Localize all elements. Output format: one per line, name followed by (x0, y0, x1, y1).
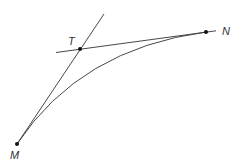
point-t (78, 47, 82, 51)
point-n (204, 30, 208, 34)
label-n: N (222, 25, 230, 37)
diagram-canvas: T N M (0, 0, 241, 165)
point-m (15, 142, 19, 146)
label-t: T (68, 35, 76, 47)
label-m: M (10, 149, 20, 161)
tangent-line-at-m (17, 14, 104, 144)
curve-m-to-n (17, 32, 206, 144)
